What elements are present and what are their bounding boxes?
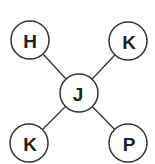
node-k-bottom-label: K <box>23 134 37 155</box>
node-k-top-label: K <box>122 32 136 53</box>
node-h: H <box>11 21 49 59</box>
node-p-label: P <box>123 134 136 155</box>
node-j-label: J <box>73 84 84 105</box>
node-j: J <box>60 74 98 112</box>
node-k-bottom: K <box>10 124 48 162</box>
node-p: P <box>109 124 147 162</box>
node-h-label: H <box>23 31 37 52</box>
letter-graph-diagram: H K J K P <box>0 0 155 164</box>
node-k-top: K <box>109 22 147 60</box>
